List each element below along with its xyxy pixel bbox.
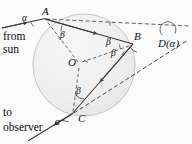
angle-arc-deviation — [160, 22, 176, 35]
angle-label-alpha-exit: α — [55, 118, 60, 128]
point-label-a: A — [42, 6, 49, 17]
caption-to-observer-line2: observer — [3, 122, 43, 134]
caption-from-sun-line2: sun — [3, 44, 19, 56]
angle-label-beta-c: β — [76, 87, 81, 97]
angle-label-beta-b-lower: β — [111, 49, 116, 59]
point-label-c: C — [78, 113, 85, 124]
angle-arc-alpha-exit — [62, 120, 69, 122]
angle-label-beta-a: β — [60, 31, 65, 41]
figure-root: A B C O α α β β β β D(α) from sun to obs… — [0, 0, 192, 144]
caption-to-observer-line1: to — [3, 107, 12, 119]
deviation-label: D(α) — [158, 38, 179, 49]
caption-from-sun-line1: from — [3, 31, 25, 43]
angle-label-alpha-incident: α — [22, 14, 27, 24]
point-label-o: O — [68, 57, 76, 68]
angle-arc-alpha-incident — [31, 23, 34, 27]
point-label-b: B — [134, 31, 141, 42]
angle-label-beta-b-upper: β — [106, 38, 111, 48]
